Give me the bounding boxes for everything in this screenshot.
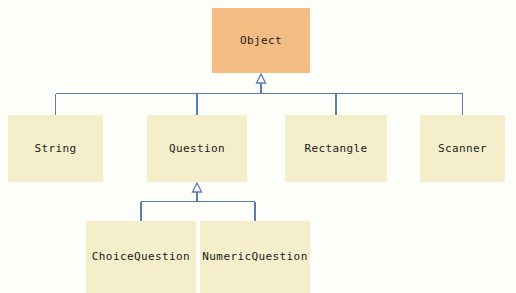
class-box-question[interactable]: Question <box>147 115 247 182</box>
class-label-choicequestion: ChoiceQuestion <box>92 250 190 263</box>
class-label-numericquestion: NumericQuestion <box>202 250 307 263</box>
class-label-string: String <box>34 142 76 155</box>
class-box-string[interactable]: String <box>8 115 103 182</box>
class-box-rectangle[interactable]: Rectangle <box>285 115 387 182</box>
class-label-rectangle: Rectangle <box>304 142 367 155</box>
class-label-object: Object <box>240 34 282 47</box>
class-label-question: Question <box>169 142 225 155</box>
class-hierarchy-diagram: Object String Question Rectangle Scanner… <box>0 0 516 293</box>
class-box-numericquestion[interactable]: NumericQuestion <box>200 221 310 293</box>
class-box-scanner[interactable]: Scanner <box>420 115 505 182</box>
class-box-object[interactable]: Object <box>212 8 310 73</box>
class-label-scanner: Scanner <box>438 142 487 155</box>
class-box-choicequestion[interactable]: ChoiceQuestion <box>86 221 196 293</box>
